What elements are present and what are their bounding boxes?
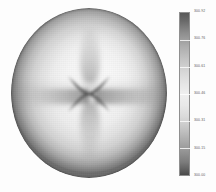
colorbar: 300.92 300.76 300.61 300.46 300.31 300.1…: [179, 12, 216, 176]
colorbar-tick: [180, 121, 191, 122]
colorbar-tick-label: 300.46: [194, 92, 205, 95]
colorbar-tick: [180, 40, 191, 41]
colorbar-tick-label: 300.76: [194, 38, 205, 41]
colorbar-tick-label: 300.92: [194, 10, 205, 13]
colorbar-tick: [180, 94, 191, 95]
disc-rim-edge: [11, 8, 167, 178]
colorbar-tick-label: 300.15: [194, 147, 205, 150]
colorbar-tick: [180, 148, 191, 149]
figure-canvas: 300.92 300.76 300.61 300.46 300.31 300.1…: [0, 0, 216, 192]
disc-heatmap: [11, 8, 167, 178]
colorbar-tick-label: 300.31: [194, 120, 205, 123]
plot-area: [0, 0, 176, 192]
colorbar-tick-label: 300.61: [194, 65, 205, 68]
colorbar-tick: [180, 67, 191, 68]
colorbar-tick-label: 300.00: [194, 174, 205, 177]
colorbar-gradient: [179, 12, 190, 176]
